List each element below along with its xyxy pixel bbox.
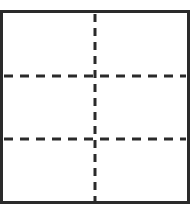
dashed-grid: [0, 0, 196, 204]
